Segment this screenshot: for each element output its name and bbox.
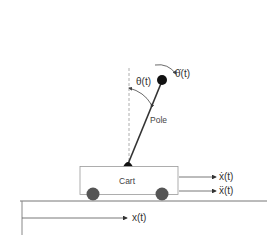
x-ddot-label: ẍ(t)	[219, 186, 233, 196]
cart-wheel-left	[87, 188, 100, 201]
x-label: x(t)	[132, 213, 146, 223]
theta-dot-arc-arrow	[155, 65, 176, 74]
cart-label: Cart	[119, 177, 135, 186]
theta-label: θ(t)	[136, 77, 151, 87]
cart-pole-diagram	[0, 0, 267, 245]
pole-label: Pole	[150, 116, 167, 125]
theta-arc-arrow	[129, 88, 151, 104]
theta-dot-label: θ̇(t)	[175, 69, 190, 79]
pole-bob	[157, 75, 167, 85]
cart-wheel-right	[156, 188, 169, 201]
x-dot-label: ẋ(t)	[219, 172, 233, 182]
